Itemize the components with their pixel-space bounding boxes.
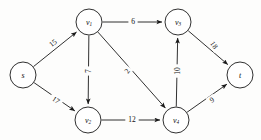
edge-v3-t xyxy=(188,31,228,65)
graph-canvas: sv1v2v3v4t 15176721210189 xyxy=(0,0,261,140)
edge-weight-v1-v2: 7 xyxy=(84,69,93,73)
edge-weight-v1-v3: 6 xyxy=(131,17,135,26)
flow-network-figure: sv1v2v3v4t 15176721210189 xyxy=(0,0,261,140)
node-label-s: s xyxy=(21,71,24,80)
edge-weights-layer: 15176721210189 xyxy=(45,17,222,124)
edge-weight-v4-v3: 10 xyxy=(173,67,182,75)
edge-weight-v2-v4: 12 xyxy=(128,115,136,124)
